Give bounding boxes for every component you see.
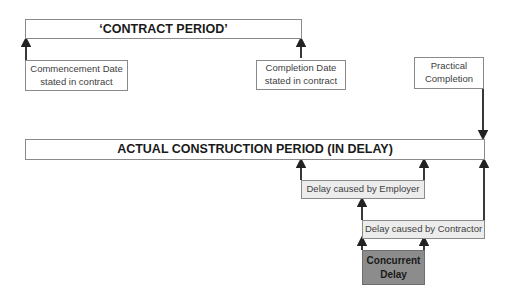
contractor-delay-box: Delay caused by Contractor (362, 220, 485, 239)
concurrent-line1: Concurrent (367, 254, 421, 268)
contractor-delay-label: Delay caused by Contractor (365, 223, 482, 236)
practical-completion-box: Practical Completion (414, 57, 484, 89)
contract-period-bar: ‘CONTRACT PERIOD’ (25, 19, 302, 39)
concurrent-delay-box: Concurrent Delay (362, 250, 425, 285)
completion-line2: stated in contract (265, 75, 337, 88)
commencement-date-box: Commencement Date stated in contract (25, 60, 128, 91)
practical-completion-line1: Practical (431, 60, 467, 73)
employer-delay-box: Delay caused by Employer (301, 180, 425, 199)
commencement-line1: Commencement Date (30, 63, 122, 76)
concurrent-line2: Delay (380, 268, 407, 282)
actual-period-label: ACTUAL CONSTRUCTION PERIOD (IN DELAY) (117, 141, 393, 158)
actual-construction-period-bar: ACTUAL CONSTRUCTION PERIOD (IN DELAY) (25, 139, 485, 160)
completion-date-box: Completion Date stated in contract (256, 60, 346, 90)
practical-completion-line2: Completion (425, 73, 473, 86)
contract-period-label: ‘CONTRACT PERIOD’ (99, 21, 227, 38)
commencement-line2: stated in contract (40, 76, 112, 89)
employer-delay-label: Delay caused by Employer (307, 183, 420, 196)
completion-line1: Completion Date (266, 62, 337, 75)
